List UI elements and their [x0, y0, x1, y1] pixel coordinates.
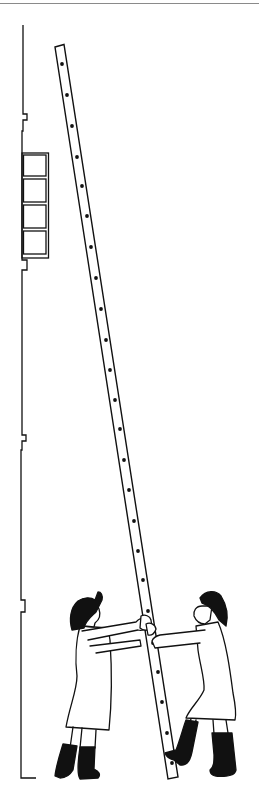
building-wall	[21, 25, 36, 778]
illustration-canvas: Two firefighters raising a ladder agains…	[0, 0, 259, 789]
firefighter-left	[55, 592, 152, 779]
ladder	[55, 45, 178, 780]
building-window	[22, 153, 49, 258]
